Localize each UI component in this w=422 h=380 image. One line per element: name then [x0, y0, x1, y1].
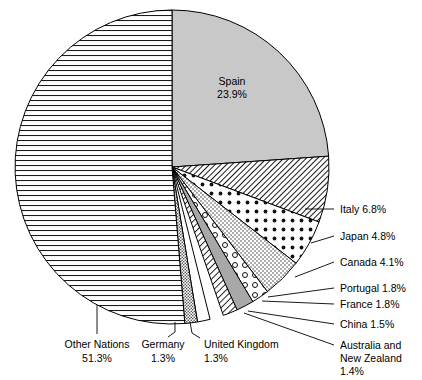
label-other-nations-line2: 51.3%: [82, 352, 112, 364]
label-united-kingdom-line1: United Kingdom: [204, 338, 279, 350]
label-spain-pct: 23.9%: [217, 88, 247, 100]
label-australia-new-zealand-line1: Australia and: [340, 339, 401, 351]
label-australia-new-zealand-line2: New Zealand: [340, 352, 402, 364]
label-other-nations-line1: Other Nations: [65, 338, 130, 350]
pie-chart-figure: Spain 23.9% Italy 6.8% Japan 4.8% Canada…: [0, 0, 422, 380]
label-portugal: Portugal 1.8%: [340, 282, 406, 294]
label-germany-line2: 1.3%: [151, 352, 175, 364]
label-japan: Japan 4.8%: [340, 230, 395, 242]
label-china: China 1.5%: [340, 318, 394, 330]
label-united-kingdom-line2: 1.3%: [204, 352, 228, 364]
label-australia-new-zealand-line3: 1.4%: [340, 365, 364, 377]
pie-slices: [15, 10, 329, 324]
label-italy: Italy 6.8%: [340, 203, 386, 215]
label-spain-name: Spain: [219, 75, 246, 87]
label-canada: Canada 4.1%: [340, 256, 404, 268]
label-germany-line1: Germany: [141, 338, 185, 350]
pie-chart-svg: Spain 23.9% Italy 6.8% Japan 4.8% Canada…: [0, 0, 422, 380]
label-france: France 1.8%: [340, 298, 400, 310]
